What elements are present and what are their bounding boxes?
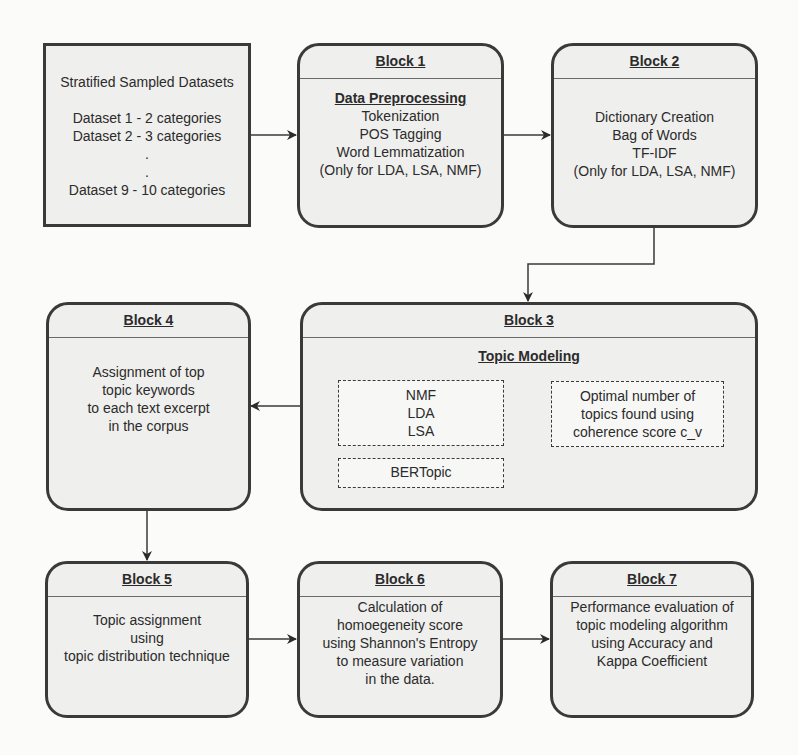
block-2-vectorization: Block 2 Dictionary Creation Bag of Words… [551, 43, 758, 228]
model-lda: LDA [339, 404, 503, 422]
block-4-line: in the corpus [49, 417, 248, 435]
block-6-line: homoegeneity score [300, 616, 500, 634]
block-6-line: using Shannon's Entropy [300, 634, 500, 652]
block-6-homogeneity: Block 6 Calculation of homoegeneity scor… [297, 561, 503, 718]
block-3-subtitle: Topic Modeling [303, 347, 755, 365]
ellipsis-dot: . [46, 163, 248, 181]
optimal-topics-box: Optimal number of topics found using coh… [551, 381, 724, 447]
models-group-box: NMF LDA LSA [338, 380, 504, 446]
block-4-line: Assignment of top [49, 363, 248, 381]
block-1-data-preprocessing: Block 1 Data Preprocessing Tokenization … [297, 43, 504, 228]
block-4-header: Block 4 [49, 305, 248, 338]
block-6-header: Block 6 [300, 564, 500, 597]
block-1-header: Block 1 [300, 46, 501, 79]
source-title: Stratified Sampled Datasets [46, 73, 248, 91]
block-6-line: to measure variation [300, 652, 500, 670]
block-2-header: Block 2 [554, 46, 755, 79]
block-4-line: topic keywords [49, 381, 248, 399]
block-7-line: Kappa Coefficient [553, 652, 751, 670]
arrow-block2-to-block3 [528, 227, 654, 301]
source-datasets-box: Stratified Sampled Datasets Dataset 1 - … [43, 43, 251, 227]
block-1-subtitle: Data Preprocessing [300, 89, 501, 107]
block-7-header: Block 7 [553, 564, 751, 597]
bertopic-box: BERTopic [338, 458, 504, 488]
optimal-line: coherence score c_v [552, 423, 723, 441]
block-2-line: (Only for LDA, LSA, NMF) [554, 162, 755, 180]
block-4-keyword-assignment: Block 4 Assignment of top topic keywords… [46, 302, 251, 511]
block-5-header: Block 5 [48, 564, 246, 597]
model-lsa: LSA [339, 422, 503, 440]
block-1-line: (Only for LDA, LSA, NMF) [300, 161, 501, 179]
dataset-item: Dataset 2 - 3 categories [46, 127, 248, 145]
block-7-performance-evaluation: Block 7 Performance evaluation of topic … [550, 561, 754, 718]
block-2-line: Dictionary Creation [554, 108, 755, 126]
block-7-line: topic modeling algorithm [553, 616, 751, 634]
block-3-header: Block 3 [303, 305, 755, 338]
block-5-line: topic distribution technique [48, 647, 246, 665]
block-1-line: Tokenization [300, 107, 501, 125]
block-2-line: TF-IDF [554, 144, 755, 162]
optimal-line: topics found using [552, 405, 723, 423]
model-nmf: NMF [339, 386, 503, 404]
ellipsis-dot: . [46, 145, 248, 163]
dataset-item: Dataset 9 - 10 categories [46, 181, 248, 199]
optimal-line: Optimal number of [552, 387, 723, 405]
block-6-line: in the data. [300, 670, 500, 688]
block-7-line: Performance evaluation of [553, 598, 751, 616]
block-5-topic-assignment: Block 5 Topic assignment using topic dis… [45, 561, 249, 718]
block-6-line: Calculation of [300, 598, 500, 616]
block-5-line: Topic assignment [48, 611, 246, 629]
block-4-line: to each text excerpt [49, 399, 248, 417]
dataset-item: Dataset 1 - 2 categories [46, 109, 248, 127]
block-2-line: Bag of Words [554, 126, 755, 144]
model-bertopic: BERTopic [390, 464, 451, 480]
block-7-line: using Accuracy and [553, 634, 751, 652]
block-1-line: Word Lemmatization [300, 143, 501, 161]
block-5-line: using [48, 629, 246, 647]
block-1-line: POS Tagging [300, 125, 501, 143]
